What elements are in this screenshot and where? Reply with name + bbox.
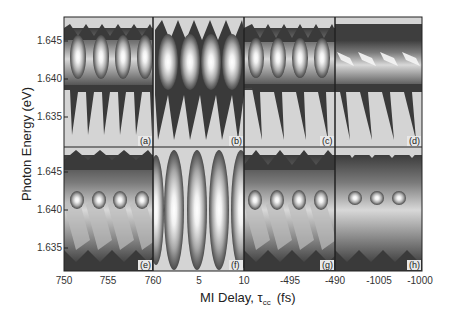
panel-label-e: (e) xyxy=(140,260,151,270)
panel-label-f: (f) xyxy=(231,260,240,270)
panel-label-g: (g) xyxy=(322,260,333,270)
panel-label-b: (b) xyxy=(231,136,242,146)
x-tick-label: 10 xyxy=(238,275,250,286)
panel-g xyxy=(244,150,336,271)
x-tick-label: 755 xyxy=(100,275,117,286)
x-tick-label: 750 xyxy=(56,275,73,286)
x-tick-label: -490 xyxy=(325,275,345,286)
x-tick-label: -1005 xyxy=(366,275,392,286)
y-tick-label: 1.645 xyxy=(37,35,62,46)
panel-label-d: (d) xyxy=(409,136,420,146)
x-axis-title: MI Delay, τcc(fs) xyxy=(200,290,295,307)
x-tick-label: -495 xyxy=(280,275,300,286)
x-tick-label: 760 xyxy=(145,275,162,286)
y-tick-label: 1.640 xyxy=(37,73,62,84)
y-axis-title: Photon Energy (eV) xyxy=(19,87,34,201)
panel-label-h: (h) xyxy=(409,260,420,270)
x-tick-label: -1000 xyxy=(407,275,433,286)
panel-e xyxy=(64,150,156,271)
y-tick-label: 1.635 xyxy=(37,111,62,122)
panel-label-c: (c) xyxy=(322,136,333,146)
panel-label-a: (a) xyxy=(140,136,151,146)
y-tick-label: 1.645 xyxy=(37,166,62,177)
y-tick-label: 1.635 xyxy=(37,242,62,253)
x-tick-label: 5 xyxy=(196,275,202,286)
figure: 1.645 1.640 1.635 1.645 1.640 1.635 750 … xyxy=(0,0,452,320)
panel-h xyxy=(335,147,422,271)
y-tick-label: 1.640 xyxy=(37,204,62,215)
